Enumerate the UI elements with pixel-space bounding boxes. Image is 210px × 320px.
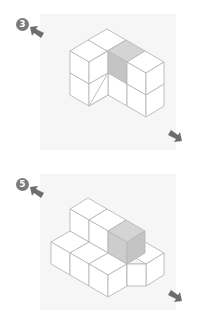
figure-5: 5 <box>0 160 210 320</box>
figure-3: 3 <box>0 0 210 160</box>
cube-structure-3 <box>0 0 210 160</box>
cube-structure-5 <box>0 160 210 320</box>
